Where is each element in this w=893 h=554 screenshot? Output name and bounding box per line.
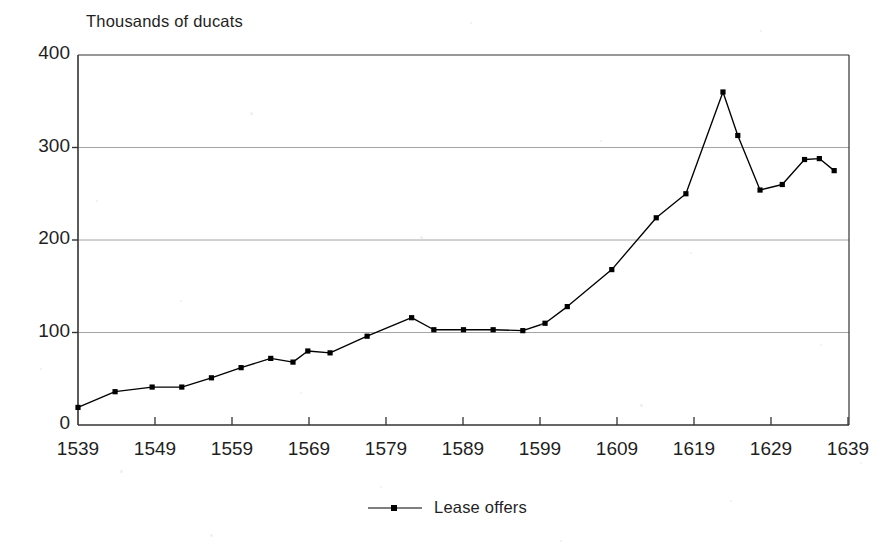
y-tick-label: 200	[6, 227, 70, 249]
series-lease-offers	[75, 89, 836, 410]
line-chart: Thousands of ducats 4003002001000 153915…	[0, 0, 893, 554]
data-point-marker	[75, 405, 80, 410]
y-tick-label: 400	[6, 42, 70, 64]
data-point-marker	[491, 327, 496, 332]
gridlines	[78, 148, 849, 333]
data-point-marker	[209, 375, 214, 380]
data-point-marker	[239, 365, 244, 370]
data-point-marker	[720, 89, 725, 94]
data-point-marker	[112, 389, 117, 394]
data-point-marker	[780, 182, 785, 187]
data-point-marker	[268, 356, 273, 361]
data-point-marker	[431, 327, 436, 332]
data-point-marker	[802, 157, 807, 162]
data-point-marker	[179, 384, 184, 389]
y-tick-label: 100	[6, 320, 70, 342]
x-tick-label: 1539	[57, 438, 99, 460]
data-point-marker	[520, 328, 525, 333]
x-tick-label: 1559	[211, 438, 253, 460]
data-point-marker	[654, 215, 659, 220]
data-point-marker	[817, 156, 822, 161]
data-point-marker	[683, 191, 688, 196]
y-tick-label: 300	[6, 135, 70, 157]
y-axis-ticks	[72, 148, 78, 333]
legend-item-lease-offers: Lease offers	[366, 498, 527, 517]
y-axis-title: Thousands of ducats	[86, 12, 243, 31]
data-point-marker	[565, 304, 570, 309]
x-tick-label: 1639	[827, 438, 869, 460]
data-point-marker	[305, 348, 310, 353]
data-point-marker	[735, 133, 740, 138]
data-point-marker	[609, 267, 614, 272]
x-axis-ticks	[155, 417, 848, 425]
data-point-marker	[461, 327, 466, 332]
x-tick-label: 1629	[750, 438, 792, 460]
plot-area	[0, 0, 893, 554]
x-tick-label: 1579	[365, 438, 407, 460]
chart-legend: Lease offers	[0, 498, 893, 518]
data-point-marker	[327, 350, 332, 355]
data-point-marker	[290, 360, 295, 365]
y-axis-tick-labels: 4003002001000	[0, 0, 70, 554]
data-point-marker	[832, 168, 837, 173]
y-tick-label: 0	[6, 412, 70, 434]
legend-line-marker-icon	[366, 502, 424, 514]
data-point-marker	[365, 334, 370, 339]
data-point-marker	[757, 187, 762, 192]
x-tick-label: 1549	[134, 438, 176, 460]
x-tick-label: 1569	[288, 438, 330, 460]
x-tick-label: 1609	[596, 438, 638, 460]
x-tick-label: 1599	[519, 438, 561, 460]
x-tick-label: 1589	[442, 438, 484, 460]
data-point-marker	[409, 315, 414, 320]
data-point-marker	[150, 384, 155, 389]
x-tick-label: 1619	[673, 438, 715, 460]
data-point-marker	[542, 321, 547, 326]
legend-label: Lease offers	[434, 498, 527, 517]
